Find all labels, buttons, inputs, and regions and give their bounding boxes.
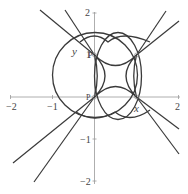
line-br-1	[137, 97, 180, 129]
tall-ellipse	[95, 33, 142, 120]
line-tr-1	[137, 11, 167, 55]
tick-x-neg1: −1	[47, 101, 58, 112]
curves	[53, 33, 151, 120]
tick-x-neg2: −2	[6, 101, 17, 112]
tick-x-2: 2	[175, 101, 180, 112]
line-br-2	[137, 97, 180, 154]
plot-canvas: −2 −1 2 2 1 −1 −2 y x	[0, 0, 188, 194]
line-tr-2	[137, 21, 180, 55]
tick-y-neg1: −1	[80, 134, 91, 145]
point-label-0-1: P	[88, 51, 93, 60]
point-label-0-0: P	[86, 93, 91, 102]
y-axis-label: y	[71, 45, 77, 57]
tick-y-neg2: −2	[80, 176, 91, 187]
axes	[10, 12, 180, 184]
tick-y-2: 2	[85, 7, 90, 18]
